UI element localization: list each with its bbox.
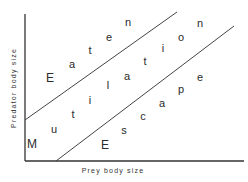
zone-letter: e bbox=[197, 71, 203, 83]
zone-labels: EatenMutilationEscape bbox=[27, 16, 203, 152]
zone-letter: i bbox=[89, 94, 91, 106]
diagram-canvas: Prey body size Predator body size EatenM… bbox=[0, 0, 248, 182]
zone-letter: t bbox=[143, 55, 146, 67]
zone-letter: a bbox=[159, 97, 166, 109]
zone-letter: c bbox=[140, 110, 146, 122]
zone-letter: s bbox=[121, 124, 127, 136]
zone-letter: i bbox=[162, 42, 164, 54]
zone-letter: a bbox=[69, 58, 76, 70]
zone-letter: o bbox=[178, 31, 184, 43]
zone-letter: l bbox=[107, 79, 109, 91]
lower-boundary-line bbox=[56, 26, 234, 161]
zone-letter: n bbox=[197, 17, 203, 29]
zone-letter: n bbox=[125, 16, 131, 28]
zone-letter: t bbox=[88, 44, 91, 56]
zone-letter: E bbox=[101, 138, 109, 152]
zone-letter: M bbox=[27, 137, 37, 151]
zone-letter: u bbox=[51, 123, 57, 135]
zone-letter: a bbox=[124, 70, 131, 82]
zone-letter: p bbox=[178, 83, 184, 95]
zone-letter: t bbox=[71, 108, 74, 120]
upper-boundary-line bbox=[25, 12, 177, 120]
y-axis-label: Predator body size bbox=[10, 48, 18, 128]
x-axis-label: Prey body size bbox=[82, 167, 145, 175]
zone-escape: Escape bbox=[101, 71, 203, 152]
zone-letter: E bbox=[46, 71, 54, 85]
zone-letter: e bbox=[106, 31, 112, 43]
